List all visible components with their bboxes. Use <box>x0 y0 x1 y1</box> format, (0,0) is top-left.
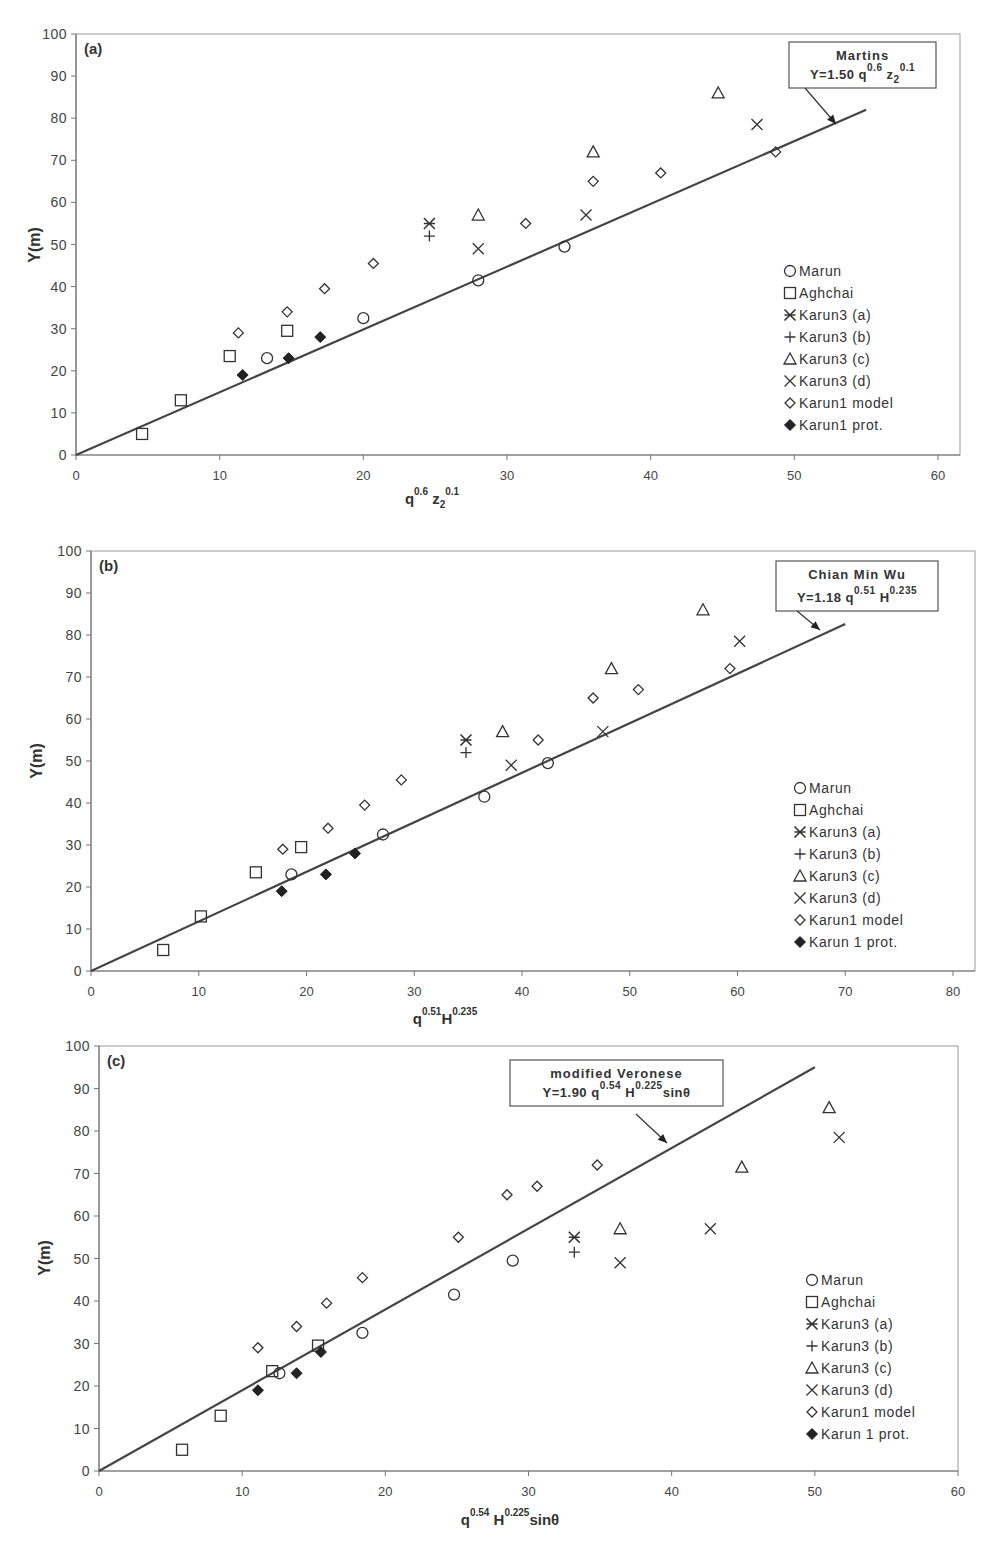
series-karun3-a <box>569 1232 580 1243</box>
series-karun3-b <box>424 231 435 242</box>
data-point <box>250 867 261 878</box>
x-tick-label: 70 <box>838 984 852 999</box>
data-point <box>506 760 517 771</box>
x-tick-label: 30 <box>521 1484 535 1499</box>
legend-label: Karun3 (c) <box>799 351 870 367</box>
x-tick-label: 20 <box>356 468 370 483</box>
data-point <box>697 604 709 615</box>
legend-item: Karun3 (a) <box>785 307 872 323</box>
x-tick-label: 20 <box>299 984 313 999</box>
data-point <box>283 353 294 364</box>
panel-label: (a) <box>84 40 102 57</box>
data-point <box>278 844 288 854</box>
y-tick-label: 40 <box>65 795 82 811</box>
x-tick-label: 60 <box>951 1484 965 1499</box>
data-point <box>215 1410 226 1421</box>
legend-item: Karun3 (d) <box>807 1382 894 1398</box>
data-point <box>360 800 370 810</box>
x-tick-label: 40 <box>515 984 529 999</box>
y-axis-label: Y(m) <box>36 1240 53 1276</box>
data-point <box>581 210 592 221</box>
legend-label: Aghchai <box>821 1294 876 1310</box>
data-point <box>296 842 307 853</box>
series-karun1-model <box>278 664 735 855</box>
y-tick-label: 80 <box>50 110 67 126</box>
data-point <box>734 636 745 647</box>
data-point <box>497 726 509 737</box>
x-tick-label: 60 <box>931 468 945 483</box>
x-tick-label: 10 <box>235 1484 249 1499</box>
legend-label: Karun3 (d) <box>799 373 871 389</box>
data-point <box>396 775 406 785</box>
data-point <box>532 1181 542 1191</box>
data-point <box>521 218 531 228</box>
legend-label: Karun3 (a) <box>799 307 871 323</box>
y-tick-label: 10 <box>73 1421 90 1437</box>
data-point <box>656 168 666 178</box>
series-karun3-a <box>424 218 435 229</box>
series-karun3-c <box>497 604 709 737</box>
y-tick-label: 80 <box>65 627 82 643</box>
y-tick-label: 70 <box>50 152 67 168</box>
legend-item: Karun 1 prot. <box>807 1426 910 1442</box>
legend-label: Karun3 (b) <box>809 846 881 862</box>
square-marker-icon <box>807 1297 818 1308</box>
data-point <box>712 87 724 98</box>
data-point <box>533 735 543 745</box>
legend-item: Karun3 (c) <box>784 351 870 367</box>
plus-marker-icon <box>785 332 796 343</box>
legend-item: Karun3 (d) <box>795 890 882 906</box>
legend-item: Karun3 (c) <box>794 868 880 884</box>
y-tick-label: 0 <box>82 1463 90 1479</box>
x-tick-label: 10 <box>212 468 226 483</box>
data-point <box>751 119 762 130</box>
series-karun-1-prot <box>252 1347 326 1396</box>
legend-item: Karun3 (c) <box>806 1360 892 1376</box>
data-point <box>449 1289 460 1300</box>
asterisk-marker-icon <box>785 310 796 321</box>
data-point <box>262 353 273 364</box>
diamond-marker-icon <box>807 1407 817 1417</box>
x-tick-label: 40 <box>664 1484 678 1499</box>
fit-line <box>76 110 866 455</box>
data-point <box>614 1223 626 1234</box>
legend-item: Marun <box>807 1272 864 1288</box>
data-point <box>507 1255 518 1266</box>
series-karun3-d <box>506 636 745 771</box>
chart-a: 01020304050607080901000102030405060(a)Y(… <box>26 26 960 510</box>
data-point <box>137 428 148 439</box>
data-point <box>233 328 243 338</box>
legend-item: Karun3 (a) <box>795 824 882 840</box>
legend-label: Karun3 (c) <box>821 1360 892 1376</box>
series-karun3-c <box>614 1102 835 1234</box>
legend-label: Karun 1 prot. <box>809 934 898 950</box>
diamond-marker-icon <box>795 915 805 925</box>
x-axis-label: q0.54 H0.225sinθ <box>461 1507 559 1528</box>
x-tick-label: 30 <box>407 984 421 999</box>
x-tick-label: 0 <box>72 468 79 483</box>
data-point <box>292 1322 302 1332</box>
arrowhead-icon <box>811 621 820 630</box>
series-karun1-model <box>253 1160 602 1353</box>
equation-box: modified VeroneseY=1.90 q0.54 H0.225sinθ <box>510 1060 723 1106</box>
x-tick-label: 60 <box>730 984 744 999</box>
data-point <box>368 258 378 268</box>
y-tick-label: 30 <box>65 837 82 853</box>
data-point <box>615 1257 626 1268</box>
y-tick-label: 70 <box>65 669 82 685</box>
filled-diamond-marker-icon <box>807 1429 818 1440</box>
data-point <box>282 307 292 317</box>
legend-item: Karun3 (b) <box>785 329 872 345</box>
data-point <box>357 1327 368 1338</box>
y-tick-label: 50 <box>50 237 67 253</box>
legend-label: Karun1 model <box>799 395 893 411</box>
data-point <box>460 747 471 758</box>
square-marker-icon <box>785 288 796 299</box>
series-karun1-model <box>233 147 780 338</box>
series-aghchai <box>137 325 293 439</box>
y-tick-label: 100 <box>57 543 82 559</box>
y-tick-label: 30 <box>50 321 67 337</box>
legend-item: Karun1 model <box>795 912 903 928</box>
data-point <box>424 218 435 229</box>
asterisk-marker-icon <box>795 827 806 838</box>
